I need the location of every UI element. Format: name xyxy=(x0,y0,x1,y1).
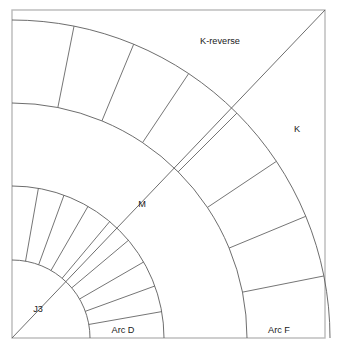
label-arc-f: Arc F xyxy=(268,325,290,335)
label-k: K xyxy=(294,124,301,134)
label-m: M xyxy=(138,199,146,209)
label-arc-d: Arc D xyxy=(112,325,135,335)
label-j3: J3 xyxy=(33,304,43,314)
label-k-reverse: K-reverse xyxy=(200,36,240,46)
arc-diagram-svg: K-reverseKMJ3Arc DArc F xyxy=(0,0,338,348)
arc-diagram-container: K-reverseKMJ3Arc DArc F xyxy=(0,0,338,348)
